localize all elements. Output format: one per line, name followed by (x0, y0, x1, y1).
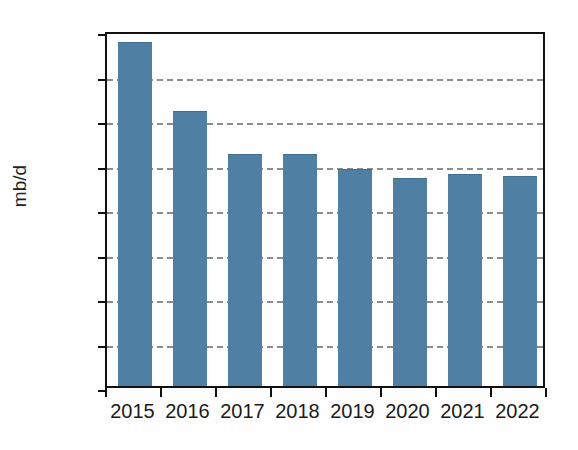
y-axis-tick (98, 257, 107, 259)
y-axis-tick (98, 346, 107, 348)
bar (338, 169, 372, 386)
bar-chart-figure: mb/d 2.83.03.23.43.63.84.04.24.4 2015201… (0, 0, 578, 450)
bar (118, 42, 152, 386)
x-axis-tick (435, 388, 437, 397)
x-axis-tick (380, 388, 382, 397)
x-axis-tick-label: 2022 (483, 400, 553, 423)
bar (503, 176, 537, 386)
y-axis-tick (98, 79, 107, 81)
x-axis-tick (325, 388, 327, 397)
x-axis-tick (105, 388, 107, 397)
bar (393, 178, 427, 386)
bar (228, 154, 262, 386)
gridline (107, 79, 543, 81)
cropped-title-remnant (110, 0, 410, 5)
plot-area (105, 32, 545, 388)
y-axis-tick (98, 301, 107, 303)
y-axis-tick (98, 34, 107, 36)
x-axis-tick (160, 388, 162, 397)
bar (283, 154, 317, 386)
bar (173, 111, 207, 386)
x-axis-tick (270, 388, 272, 397)
bar (448, 174, 482, 386)
x-axis: 20152016201720182019202020212022 (105, 388, 545, 448)
y-axis-label: mb/d (9, 136, 31, 236)
x-axis-tick (215, 388, 217, 397)
y-axis-tick (98, 212, 107, 214)
x-axis-tick (545, 388, 547, 397)
y-axis-tick (98, 123, 107, 125)
y-axis-tick (98, 168, 107, 170)
x-axis-tick (490, 388, 492, 397)
